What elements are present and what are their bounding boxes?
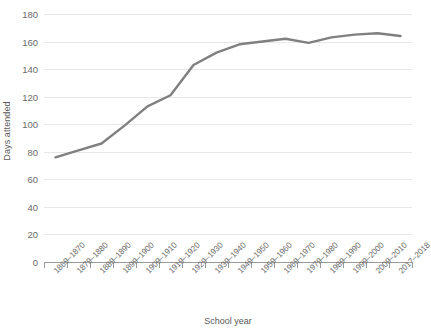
y-tick-label: 60: [14, 174, 38, 185]
x-tick: [44, 263, 45, 268]
y-axis-tick-labels: 020406080100120140160180: [12, 0, 38, 336]
y-tick-label: 0: [14, 257, 38, 268]
y-tick-label: 100: [14, 119, 38, 130]
plot-area: [44, 14, 412, 262]
y-tick-label: 40: [14, 201, 38, 212]
x-axis-title: School year: [44, 316, 412, 326]
y-tick-label: 20: [14, 229, 38, 240]
y-tick-label: 180: [14, 9, 38, 20]
y-tick-label: 160: [14, 36, 38, 47]
y-tick-label: 80: [14, 146, 38, 157]
series-days-attended: [44, 14, 412, 262]
y-tick-label: 140: [14, 64, 38, 75]
series-line: [56, 33, 401, 157]
y-tick-label: 120: [14, 91, 38, 102]
y-axis-title-label: Days attended: [2, 101, 12, 160]
